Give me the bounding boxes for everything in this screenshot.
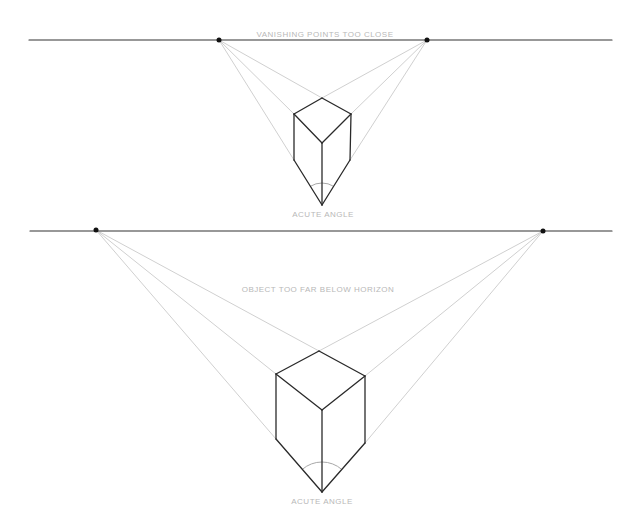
box-edge [276, 439, 322, 492]
box-edge [322, 160, 350, 205]
box-edge [322, 376, 365, 410]
construction-line-left [219, 40, 322, 98]
construction-line-right [365, 231, 543, 376]
box-edge [322, 98, 351, 114]
construction-line-left [96, 230, 276, 439]
box-edge [322, 114, 351, 143]
box-edge [294, 160, 322, 205]
construction-line-right [322, 40, 427, 98]
perspective-diagram [0, 0, 641, 526]
construction-line-right [351, 40, 427, 114]
acute-angle-label-bottom: ACUTE ANGLE [291, 497, 353, 506]
caption-object-too-far-below-horizon: OBJECT TOO FAR BELOW HORIZON [242, 285, 395, 294]
construction-line-left [96, 230, 276, 374]
box-edge [322, 443, 365, 492]
vanishing-point [541, 229, 546, 234]
box-edge [276, 374, 322, 410]
caption-vanishing-points-too-close: VANISHING POINTS TOO CLOSE [256, 30, 393, 39]
acute-angle-label-top: ACUTE ANGLE [292, 210, 354, 219]
vanishing-point [425, 38, 430, 43]
box-edge [294, 114, 322, 143]
construction-line-left [219, 40, 294, 114]
box-edge [319, 351, 365, 376]
box-edge [350, 114, 351, 160]
vanishing-point [94, 228, 99, 233]
box-edge [294, 98, 322, 114]
construction-line-left [219, 40, 294, 160]
vanishing-point [217, 38, 222, 43]
construction-line-right [350, 40, 427, 160]
construction-line-right [365, 231, 543, 443]
box-edge [276, 351, 319, 374]
